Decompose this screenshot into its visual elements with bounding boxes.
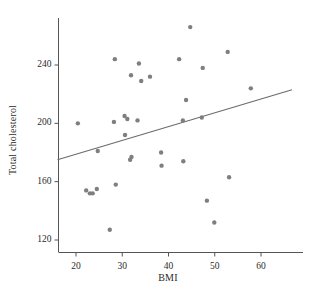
data-point [76, 121, 80, 125]
data-point [113, 57, 117, 61]
data-point [123, 133, 127, 137]
trendline [58, 90, 292, 160]
data-point [200, 115, 204, 119]
data-point [205, 198, 209, 202]
y-tick-label: 200 [37, 119, 51, 129]
data-point [96, 149, 100, 153]
data-point [181, 159, 185, 163]
x-tick-label: 30 [118, 262, 128, 272]
data-point [135, 118, 139, 122]
y-tick-label: 120 [37, 235, 51, 245]
plot-canvas [0, 0, 313, 300]
data-point [129, 73, 133, 77]
data-point [184, 98, 188, 102]
data-point [212, 220, 216, 224]
regression-line [58, 90, 292, 160]
data-point [148, 74, 152, 78]
data-point [159, 163, 163, 167]
data-point [114, 182, 118, 186]
data-point [188, 25, 192, 29]
x-tick-label: 60 [256, 262, 266, 272]
data-point [226, 50, 230, 54]
data-point [84, 188, 88, 192]
x-tick-label: 40 [164, 262, 174, 272]
data-point [227, 175, 231, 179]
tick-marks [55, 65, 262, 257]
data-point [125, 117, 129, 121]
data-point [108, 228, 112, 232]
data-point [159, 150, 163, 154]
x-tick-label: 50 [210, 262, 220, 272]
data-point [177, 57, 181, 61]
data-point [90, 191, 94, 195]
data-point [139, 79, 143, 83]
y-axis-label: Total cholesterol [7, 105, 18, 175]
y-tick-label: 160 [37, 177, 51, 187]
x-axis-label: BMI [158, 272, 178, 283]
data-point [137, 61, 141, 65]
data-point [181, 118, 185, 122]
data-point [129, 155, 133, 159]
data-point [249, 86, 253, 90]
data-point [95, 187, 99, 191]
y-tick-label: 240 [37, 60, 51, 70]
x-tick-label: 20 [71, 262, 81, 272]
data-point [201, 66, 205, 70]
scatter-plot-figure: 2030405060 240200160120 BMI Total choles… [0, 0, 313, 300]
axis-lines [59, 18, 304, 253]
data-point [112, 120, 116, 124]
